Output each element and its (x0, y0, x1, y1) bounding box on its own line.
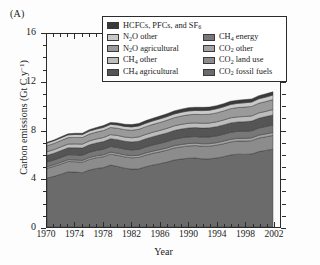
legend-swatch-n2o_other (107, 34, 119, 41)
legend-item-ch4_agricultural: CH4 agricultural (107, 66, 203, 78)
x-tick-bottom-1972 (60, 224, 61, 228)
x-tick-bottom-1987 (167, 224, 168, 228)
y-tick-left-7 (43, 143, 46, 144)
legend-label-n2o_other: N2O other (123, 33, 157, 41)
legend-label-n2o_agricultural: N2O agricultural (123, 45, 179, 53)
legend-item-co2_other: CO2 other (203, 43, 272, 55)
x-tick-bottom-2001 (267, 224, 268, 228)
legend-item-n2o_other: N2O other (107, 32, 203, 44)
y-tick-label-8: 8 (0, 124, 36, 135)
x-tick-bottom-1998 (245, 222, 246, 228)
legend-swatch-ch4_energy (203, 34, 215, 41)
legend-swatch-co2_fossil_fuels (203, 69, 215, 76)
legend-item-n2o_agricultural: N2O agricultural (107, 43, 203, 55)
y-tick-right-8 (281, 131, 286, 132)
x-tick-bottom-1978 (103, 222, 104, 228)
legend-label-ch4_other: CH4 other (123, 56, 157, 64)
legend-column-left: N2O otherN2O agriculturalCH4 otherCH4 ag… (107, 32, 203, 78)
y-tick-label-16: 16 (0, 26, 36, 37)
x-tick-top-1972 (60, 33, 61, 37)
y-tick-left-14 (43, 57, 46, 58)
x-tick-bottom-1995 (224, 224, 225, 228)
y-tick-label-12: 12 (0, 75, 36, 86)
x-tick-bottom-1982 (131, 222, 132, 228)
x-tick-bottom-1989 (181, 224, 182, 228)
y-tick-left-1 (43, 216, 46, 217)
y-tick-right-2 (282, 204, 286, 205)
y-tick-right-6 (282, 155, 286, 156)
legend-column-right: CH4 energyCO2 otherCO2 land useCO2 fossi… (203, 32, 272, 78)
x-tick-bottom-1992 (203, 224, 204, 228)
y-tick-left-11 (43, 94, 46, 95)
legend-swatch-ch4_agricultural (107, 69, 119, 76)
x-tick-top-1977 (96, 33, 97, 37)
x-tick-bottom-1970 (46, 222, 47, 228)
x-tick-bottom-1980 (117, 224, 118, 228)
x-tick-bottom-1999 (253, 224, 254, 228)
y-tick-right-11 (282, 94, 286, 95)
legend-label-co2_other: CO2 other (219, 45, 253, 53)
y-tick-right-7 (282, 143, 286, 144)
y-tick-left-13 (43, 70, 46, 71)
y-tick-right-1 (282, 216, 286, 217)
figure-panel-a: (A) Carbon emissions (Gt C y−1) Year 048… (0, 0, 320, 265)
panel-label: (A) (10, 8, 24, 19)
y-tick-left-2 (43, 204, 46, 205)
x-tick-bottom-1991 (196, 224, 197, 228)
x-tick-bottom-1981 (124, 224, 125, 228)
x-tick-label-2002: 2002 (254, 229, 294, 239)
y-tick-left-4 (41, 179, 46, 180)
x-tick-bottom-1996 (231, 224, 232, 228)
y-tick-left-5 (43, 167, 46, 168)
y-axis-title: Carbon emissions (Gt C y−1) (18, 23, 29, 213)
y-tick-label-4: 4 (0, 172, 36, 183)
x-tick-bottom-1975 (82, 224, 83, 228)
x-tick-bottom-1971 (53, 224, 54, 228)
x-tick-bottom-1984 (146, 224, 147, 228)
legend-swatch-co2_other (203, 45, 215, 52)
x-tick-top-1973 (67, 33, 68, 37)
legend-label-co2_fossil_fuels: CO2 fossil fuels (219, 68, 272, 76)
x-tick-bottom-2002 (274, 222, 275, 228)
y-tick-right-9 (282, 118, 286, 119)
legend-label-ch4_agricultural: CH4 agricultural (123, 68, 178, 76)
x-tick-bottom-1997 (238, 224, 239, 228)
legend-label-co2_land_use: CO2 land use (219, 56, 263, 64)
chart-legend: HCFCs, PFCs, and SF6 N2O otherN2O agricu… (102, 16, 287, 82)
legend-swatch-co2_land_use (203, 57, 215, 64)
y-tick-left-6 (43, 155, 46, 156)
x-tick-top-1976 (89, 33, 90, 37)
y-tick-left-10 (43, 106, 46, 107)
legend-item-ch4_other: CH4 other (107, 55, 203, 67)
legend-swatch-ch4_other (107, 57, 119, 64)
y-tick-right-5 (282, 167, 286, 168)
legend-swatch-n2o_agricultural (107, 45, 119, 52)
x-tick-bottom-1973 (67, 224, 68, 228)
x-tick-bottom-2000 (260, 224, 261, 228)
x-tick-top-1970 (46, 33, 47, 39)
x-tick-bottom-1993 (210, 224, 211, 228)
y-tick-left-8 (41, 131, 46, 132)
x-tick-top-1971 (53, 33, 54, 37)
x-tick-bottom-1990 (188, 222, 189, 228)
legend-label-hcfcs-pfcs-sf6: HCFCs, PFCs, and SF6 (123, 22, 201, 30)
x-tick-bottom-1976 (89, 224, 90, 228)
x-tick-bottom-1994 (217, 222, 218, 228)
legend-swatch-hcfcs-pfcs-sf6 (107, 22, 119, 29)
legend-label-ch4_energy: CH4 energy (219, 33, 258, 41)
x-tick-bottom-1977 (96, 224, 97, 228)
y-tick-right-3 (282, 191, 286, 192)
legend-item-hcfcs-pfcs-sf6: HCFCs, PFCs, and SF6 (107, 20, 282, 32)
x-axis-title: Year (46, 246, 281, 257)
legend-item-ch4_energy: CH4 energy (203, 32, 272, 44)
y-tick-left-3 (43, 191, 46, 192)
legend-item-co2_fossil_fuels: CO2 fossil fuels (203, 66, 272, 78)
x-tick-bottom-1979 (110, 224, 111, 228)
y-tick-left-15 (43, 45, 46, 46)
x-tick-bottom-1988 (174, 224, 175, 228)
x-tick-top-1974 (74, 33, 75, 39)
x-tick-top-1975 (82, 33, 83, 37)
y-tick-right-4 (281, 179, 286, 180)
y-tick-left-12 (41, 82, 46, 83)
x-tick-bottom-1986 (160, 222, 161, 228)
